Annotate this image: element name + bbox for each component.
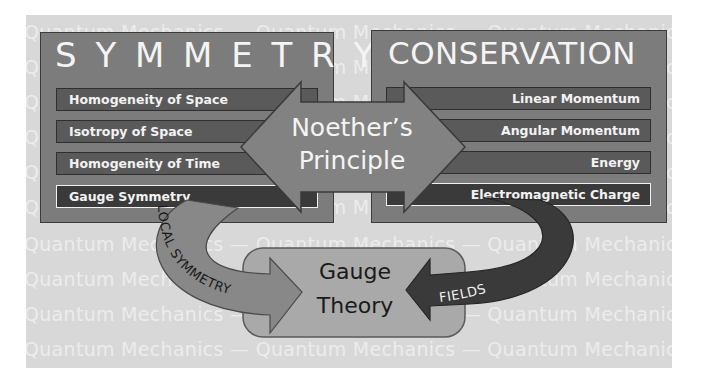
- noether-line-1: Noether’s: [262, 111, 442, 144]
- gauge-line-2: Theory: [300, 289, 410, 323]
- noether-line-2: Principle: [262, 144, 442, 177]
- diagram-graphics: LOCAL SYMMETRY FIELDS: [0, 0, 705, 384]
- gauge-theory-label: Gauge Theory: [300, 255, 410, 323]
- gauge-line-1: Gauge: [300, 255, 410, 289]
- noether-principle-label: Noether’s Principle: [262, 111, 442, 177]
